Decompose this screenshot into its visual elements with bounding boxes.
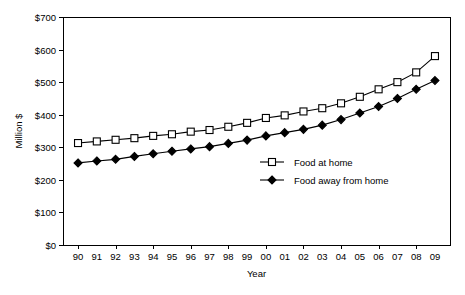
- data-point-marker: [243, 136, 251, 144]
- y-tick-label: $600: [35, 45, 56, 56]
- data-point-marker: [168, 147, 176, 155]
- data-point-marker: [224, 139, 232, 147]
- x-tick-label: 02: [298, 251, 309, 262]
- data-point-marker: [93, 138, 100, 145]
- x-tick-label: 03: [317, 251, 328, 262]
- x-tick-label: 09: [430, 251, 441, 262]
- data-point-marker: [187, 145, 195, 153]
- data-point-marker: [319, 105, 326, 112]
- legend-marker-filled-diamond: [268, 176, 276, 184]
- data-point-marker: [431, 53, 438, 60]
- data-point-marker: [300, 108, 307, 115]
- x-tick-label: 94: [148, 251, 159, 262]
- x-tick-label: 92: [110, 251, 121, 262]
- y-tick-label: $500: [35, 77, 56, 88]
- line-chart: $0$100$200$300$400$500$600$700Million $9…: [0, 0, 465, 295]
- data-point-marker: [225, 123, 232, 130]
- x-tick-label: 96: [185, 251, 196, 262]
- legend-label-2: Food away from home: [294, 175, 389, 186]
- y-tick-label: $300: [35, 142, 56, 153]
- data-point-marker: [412, 85, 420, 93]
- data-point-marker: [413, 69, 420, 76]
- data-point-marker: [187, 128, 194, 135]
- data-point-marker: [74, 159, 82, 167]
- x-tick-label: 08: [411, 251, 422, 262]
- data-point-marker: [393, 94, 401, 102]
- x-tick-label: 01: [279, 251, 290, 262]
- data-point-marker: [281, 129, 289, 137]
- x-tick-label: 95: [167, 251, 178, 262]
- x-tick-label: 91: [92, 251, 103, 262]
- data-point-marker: [93, 157, 101, 165]
- data-point-marker: [168, 131, 175, 138]
- legend-label-1: Food at home: [294, 157, 353, 168]
- y-tick-label: $200: [35, 175, 56, 186]
- data-point-marker: [337, 116, 345, 124]
- y-tick-label: $100: [35, 207, 56, 218]
- data-point-marker: [338, 100, 345, 107]
- data-point-marker: [375, 103, 383, 111]
- x-tick-label: 97: [204, 251, 215, 262]
- data-point-marker: [281, 112, 288, 119]
- y-tick-label: $700: [35, 12, 56, 23]
- x-tick-label: 99: [242, 251, 253, 262]
- data-point-marker: [431, 77, 439, 85]
- x-tick-label: 07: [392, 251, 403, 262]
- x-tick-label: 90: [73, 251, 84, 262]
- data-point-marker: [150, 132, 157, 139]
- legend-marker-open-square: [269, 159, 276, 166]
- data-point-marker: [130, 152, 138, 160]
- data-point-marker: [299, 125, 307, 133]
- data-point-marker: [394, 79, 401, 86]
- y-axis-title: Million $: [13, 113, 24, 149]
- x-tick-label: 98: [223, 251, 234, 262]
- data-point-marker: [75, 140, 82, 147]
- plot-frame: [64, 18, 451, 246]
- x-tick-label: 05: [355, 251, 366, 262]
- data-point-marker: [356, 109, 364, 117]
- x-tick-label: 00: [261, 251, 272, 262]
- data-point-marker: [356, 93, 363, 100]
- x-axis-title: Year: [247, 268, 266, 279]
- x-tick-label: 04: [336, 251, 347, 262]
- data-point-marker: [206, 143, 214, 151]
- x-tick-label: 06: [373, 251, 384, 262]
- data-point-marker: [318, 121, 326, 129]
- data-point-marker: [112, 155, 120, 163]
- data-point-marker: [149, 150, 157, 158]
- data-point-marker: [262, 132, 270, 140]
- data-point-marker: [262, 114, 269, 121]
- chart-container: $0$100$200$300$400$500$600$700Million $9…: [0, 0, 465, 295]
- series-line-1: [78, 56, 435, 143]
- data-point-marker: [206, 127, 213, 134]
- data-point-marker: [244, 119, 251, 126]
- y-tick-label: $400: [35, 110, 56, 121]
- y-tick-label: $0: [45, 240, 56, 251]
- x-tick-label: 93: [129, 251, 140, 262]
- data-point-marker: [131, 135, 138, 142]
- data-point-marker: [112, 136, 119, 143]
- data-point-marker: [375, 86, 382, 93]
